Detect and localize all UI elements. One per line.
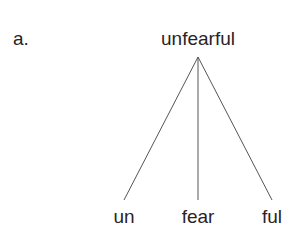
edge-right xyxy=(198,57,272,200)
leaf-suffix: ful xyxy=(242,207,302,226)
edge-left xyxy=(124,57,198,200)
leaf-prefix: un xyxy=(94,207,154,226)
leaf-stem: fear xyxy=(168,207,228,226)
tree-edges xyxy=(0,0,302,239)
